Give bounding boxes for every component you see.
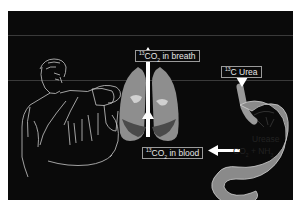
label-co2-blood: 13CO2 in blood bbox=[142, 147, 203, 159]
diagram-panel: 13CO2 in breath 13C Urea 13CO2 in blood … bbox=[8, 11, 293, 200]
label-co2-nh3: CO2 + NH3 bbox=[233, 146, 273, 156]
label-co2-breath: 13CO2 in breath bbox=[135, 50, 200, 62]
diagram-artwork bbox=[8, 11, 293, 200]
label-13c-urea: 13C Urea bbox=[221, 66, 262, 78]
label-urease: Urease bbox=[252, 134, 279, 144]
man-drinking-illustration bbox=[22, 59, 121, 177]
esophagus bbox=[236, 77, 254, 121]
